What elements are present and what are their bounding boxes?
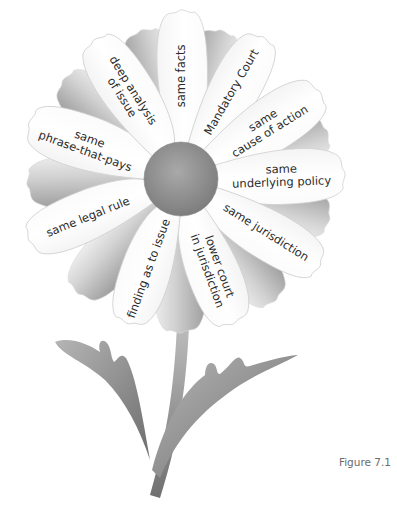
figure-caption: Figure 7.1 [339,456,391,468]
flower-diagram: same factsMandatory Courtsamecause of ac… [0,0,397,513]
left-leaf [55,340,150,460]
flower-center [144,142,218,216]
petal-label: same facts [174,44,188,107]
